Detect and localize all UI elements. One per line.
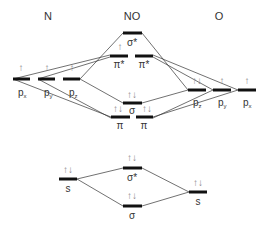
header-n: N xyxy=(44,10,52,22)
n-py-label: py xyxy=(44,87,53,99)
sigma-2p-label: σ xyxy=(129,105,136,116)
electron-up-icon: ↑ xyxy=(19,62,24,73)
sigma-star-2p-label: σ* xyxy=(127,37,137,48)
electron-pair-icon: ↑↓ xyxy=(192,75,202,86)
electron-pair-icon: ↑↓ xyxy=(113,103,123,114)
electron-up-icon: ↑ xyxy=(45,62,50,73)
o-s-label: s xyxy=(196,196,201,207)
mo-diagram: N NO O ↑ ↑ ↑ px py pz xyxy=(0,0,264,225)
n-px-label: px xyxy=(18,87,27,99)
o-py-label: py xyxy=(218,97,227,109)
header-o: O xyxy=(215,10,224,22)
pi-2-label: π xyxy=(141,120,148,131)
n-pz-label: pz xyxy=(69,87,78,99)
n-s-label: s xyxy=(66,183,71,194)
correlation-lines-upper xyxy=(13,33,238,118)
n-p-orbitals: ↑ ↑ ↑ px py pz xyxy=(13,62,80,99)
o-pz-label: pz xyxy=(193,97,202,109)
electron-pair-icon: ↑↓ xyxy=(193,177,203,188)
sigma-2s-label: σ xyxy=(129,210,136,221)
electron-pair-icon: ↑↓ xyxy=(127,89,137,100)
pi-star-1-label: π* xyxy=(114,59,125,70)
electron-pair-icon: ↑↓ xyxy=(127,190,137,201)
pi-star-2-label: π* xyxy=(139,59,150,70)
electron-pair-icon: ↑↓ xyxy=(63,164,73,175)
s-orbitals: ↑↓ s ↑↓ σ* ↑↓ σ ↑↓ s xyxy=(59,152,207,221)
o-px-label: px xyxy=(243,97,252,109)
pi-1-label: π xyxy=(117,120,124,131)
o-p-orbitals: ↑↓ ↑ ↑ pz py px xyxy=(188,75,256,109)
electron-up-icon: ↑ xyxy=(220,75,225,86)
electron-up-icon: ↑ xyxy=(245,75,250,86)
electron-up-icon: ↑ xyxy=(118,41,123,52)
electron-pair-icon: ↑↓ xyxy=(142,103,152,114)
sigma-star-2s-label: σ* xyxy=(127,172,137,183)
electron-up-icon: ↑ xyxy=(70,62,75,73)
header-no: NO xyxy=(124,10,141,22)
electron-pair-icon: ↑↓ xyxy=(127,152,137,163)
no-upper-mos: σ* ↑ π* π* ↑↓ σ ↑↓ ↑↓ π π xyxy=(110,33,153,131)
